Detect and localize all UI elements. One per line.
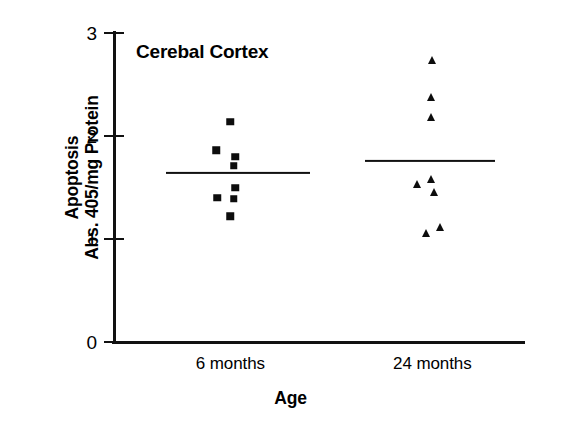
data-point [427, 93, 435, 101]
y-axis-line [113, 31, 116, 344]
x-axis-line [112, 341, 525, 344]
data-point [213, 194, 221, 202]
data-point [227, 213, 235, 221]
y-axis-title-line-1: Apoptosis [63, 95, 83, 259]
data-point [230, 162, 238, 170]
data-point [427, 175, 435, 183]
mean-line [166, 172, 310, 174]
y-tick-0: 0 [104, 341, 124, 344]
data-point [422, 229, 430, 237]
data-point [428, 56, 436, 64]
plot-area: Cerebal Cortex 0123 6 months24 months [113, 33, 525, 342]
y-tick-label-3: 3 [86, 24, 97, 43]
data-point [227, 118, 235, 126]
y-tick-label-2: 2 [86, 127, 97, 146]
x-group-label: 24 months [393, 354, 471, 374]
data-point [232, 184, 240, 192]
data-point [230, 195, 238, 203]
chart-title: Cerebal Cortex [136, 41, 268, 63]
data-point [413, 180, 421, 188]
data-point [232, 153, 240, 161]
y-tick-label-0: 0 [86, 333, 97, 352]
x-group-label: 6 months [196, 354, 265, 374]
data-point [430, 188, 438, 196]
y-tick-1: 1 [104, 238, 124, 241]
data-point [212, 147, 220, 155]
y-axis-title: Apoptosis Abs. 405/mg Protein [0, 0, 100, 355]
chart-figure: Apoptosis Abs. 405/mg Protein Cerebal Co… [0, 0, 581, 428]
y-tick-label-1: 1 [86, 230, 97, 249]
data-point [427, 113, 435, 121]
y-tick-3: 3 [104, 32, 124, 35]
mean-line [365, 160, 495, 162]
x-axis-title: Age [0, 388, 581, 409]
data-point [436, 223, 444, 231]
y-tick-2: 2 [104, 135, 124, 138]
